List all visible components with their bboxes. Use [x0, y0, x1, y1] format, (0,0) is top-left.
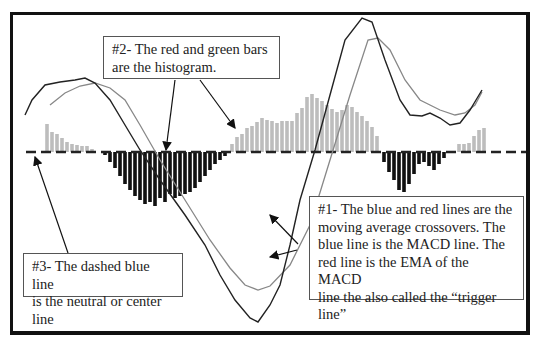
histogram-bar: [300, 108, 304, 152]
histogram-bar: [193, 152, 197, 188]
histogram-bar: [280, 121, 284, 152]
histogram-bar: [65, 142, 69, 152]
histogram-bar: [240, 134, 244, 152]
histogram-bar: [270, 121, 274, 152]
histogram-bar: [55, 134, 59, 152]
histogram-bar: [407, 152, 411, 184]
histogram-bar: [50, 132, 54, 152]
center-line-callout: #3- The dashed blue line is the neutral …: [23, 253, 183, 297]
histogram-bars: [45, 94, 486, 206]
histogram-bar: [397, 152, 401, 190]
histogram-bar: [355, 112, 359, 152]
histogram-bar: [305, 97, 309, 152]
histogram-bar: [365, 121, 369, 152]
histogram-bar: [437, 152, 441, 164]
histogram-bar: [198, 152, 202, 182]
histogram-bar: [360, 116, 364, 152]
histogram-bar: [370, 127, 374, 152]
histogram-bar: [457, 144, 461, 152]
histogram-bar: [350, 107, 354, 152]
histogram-bar: [392, 152, 396, 180]
histogram-bar: [412, 152, 416, 174]
histogram-bar: [422, 152, 426, 162]
histogram-bar: [250, 126, 254, 152]
arrow-histogram-left: [200, 80, 235, 128]
histogram-bar: [213, 152, 217, 164]
arrow-histogram-down: [166, 80, 175, 150]
histogram-bar: [285, 121, 289, 152]
histogram-bar: [133, 152, 137, 196]
moving-average-callout: #1- The blue and red lines are the movin…: [309, 196, 524, 300]
histogram-bar: [163, 152, 167, 202]
histogram-bar: [432, 152, 436, 170]
arrow-signal: [270, 250, 297, 257]
histogram-bar: [173, 152, 177, 198]
histogram-bar: [245, 128, 249, 152]
histogram-bar: [345, 105, 349, 152]
histogram-bar: [203, 152, 207, 176]
histogram-bar: [60, 138, 64, 152]
histogram-bar: [153, 152, 157, 206]
histogram-bar: [402, 152, 406, 192]
histogram-bar: [472, 136, 476, 152]
histogram-bar: [108, 152, 112, 162]
histogram-bar: [290, 121, 294, 152]
arrow-center-line: [35, 157, 68, 253]
histogram-bar: [208, 152, 212, 170]
histogram-bar: [382, 152, 386, 162]
histogram-bar: [427, 152, 431, 166]
histogram-bar: [118, 152, 122, 176]
histogram-bar: [45, 124, 49, 152]
histogram-bar: [128, 152, 132, 190]
histogram-bar: [138, 152, 142, 200]
histogram-bar: [275, 123, 279, 152]
histogram-bar: [123, 152, 127, 184]
histogram-bar: [188, 152, 192, 192]
histogram-bar: [467, 143, 471, 152]
histogram-bar: [255, 122, 259, 152]
histogram-bar: [375, 136, 379, 152]
histogram-bar: [113, 152, 117, 168]
histogram-bar: [330, 109, 334, 152]
histogram-bar: [295, 113, 299, 152]
histogram-bar: [482, 128, 486, 152]
histogram-bar: [477, 130, 481, 152]
histogram-bar: [235, 137, 239, 152]
histogram-callout: #2- The red and green bars are the histo…: [103, 36, 280, 79]
histogram-bar: [417, 152, 421, 164]
histogram-bar: [148, 152, 152, 202]
histogram-bar: [183, 152, 187, 194]
histogram-bar: [387, 152, 391, 172]
histogram-bar: [265, 120, 269, 152]
histogram-bar: [310, 94, 314, 152]
histogram-bar: [442, 152, 446, 158]
histogram-bar: [260, 118, 264, 152]
